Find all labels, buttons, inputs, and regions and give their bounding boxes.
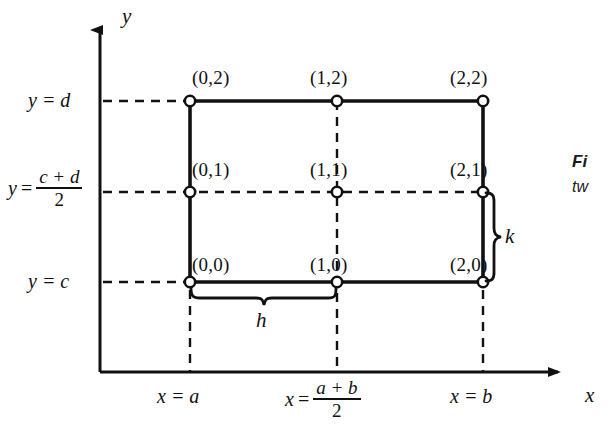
node-marker-0-0 [185, 277, 195, 287]
brace-h-label: h [256, 310, 267, 331]
y-mid-op: = [21, 178, 32, 198]
x-gridline-label-mid: x = a + b 2 [285, 378, 361, 420]
node-marker-1-1 [332, 187, 342, 197]
x-mid-fraction: a + b 2 [313, 378, 360, 420]
node-marker-1-0 [332, 277, 342, 287]
node-label-2-2: (2,2) [450, 68, 487, 87]
y-mid-denominator: 2 [52, 189, 68, 209]
y-mid-numerator: c + d [36, 167, 82, 187]
node-label-0-0: (0,0) [192, 255, 229, 274]
brace-h-icon [191, 288, 336, 305]
figure-diagram: y x y = d y = c + d 2 y = c x = a x = a … [0, 0, 611, 428]
x-mid-denominator: 2 [329, 400, 345, 420]
node-label-0-1: (0,1) [192, 160, 229, 179]
caption-title: Fi [572, 152, 611, 172]
node-label-1-2: (1,2) [310, 68, 347, 87]
y-gridline-label-top: y = d [28, 90, 70, 110]
node-marker-1-2 [332, 96, 342, 106]
x-gridline-label-right: x = b [450, 386, 492, 406]
x-mid-numerator: a + b [313, 378, 360, 398]
x-mid-lhs: x [285, 389, 294, 409]
y-axis-label: y [122, 6, 131, 27]
node-marker-2-2 [478, 96, 488, 106]
figure-caption: Fi tw [572, 152, 611, 196]
y-mid-fraction: c + d 2 [36, 167, 82, 209]
caption-body: tw [572, 178, 611, 196]
node-label-1-0: (1,0) [310, 255, 347, 274]
node-label-1-1: (1,1) [310, 160, 347, 179]
x-axis-label: x [585, 385, 594, 406]
node-label-0-2: (0,2) [192, 68, 229, 87]
vertical-guide-lines [190, 101, 483, 372]
node-label-2-0: (2,0) [450, 255, 487, 274]
y-gridline-label-mid: y = c + d 2 [8, 167, 82, 209]
node-marker-0-2 [185, 96, 195, 106]
diagram-canvas [0, 0, 611, 428]
brace-k-icon [486, 193, 501, 281]
horizontal-guide-lines [103, 101, 483, 282]
node-marker-0-1 [185, 187, 195, 197]
x-gridline-label-left: x = a [157, 386, 199, 406]
y-mid-lhs: y [8, 178, 17, 198]
node-label-2-1: (2,1) [450, 160, 487, 179]
y-gridline-label-bottom: y = c [28, 271, 69, 291]
x-mid-op: = [298, 389, 309, 409]
brace-k-label: k [505, 226, 514, 247]
